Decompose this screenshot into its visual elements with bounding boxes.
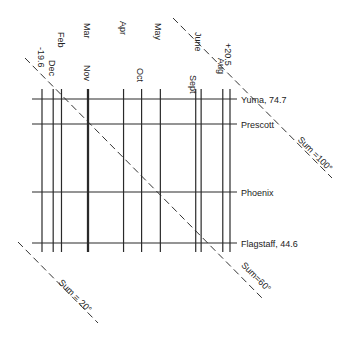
city-label: Flagstaff, 44.6 — [241, 239, 298, 249]
nomogram-figure: -19.6 Feb Mar Apr May June +20.5 Dec Nov… — [0, 0, 354, 338]
month-label-sep: Sept — [188, 75, 198, 94]
month-label-dec: Dec — [47, 60, 57, 77]
sum-60-line — [25, 58, 262, 298]
sum-20-label: Sum = 20° — [57, 277, 94, 314]
month-label-mar: Mar — [82, 23, 92, 39]
month-label-min: -19.6 — [36, 47, 46, 68]
city-label: Yuma, 74.7 — [241, 95, 287, 105]
month-label-apr: Apr — [118, 21, 128, 35]
month-label-jun: June — [193, 32, 203, 52]
month-label-oct: Oct — [135, 68, 145, 83]
sum-60-label: Sum=60° — [239, 260, 273, 294]
sum-100-label: Sum =100° — [296, 134, 335, 173]
month-labels: -19.6 Feb Mar Apr May June +20.5 Dec Nov… — [36, 21, 233, 94]
sum-lines — [18, 18, 332, 323]
city-label: Phoenix — [241, 188, 274, 198]
city-label: Prescott — [241, 120, 275, 130]
month-label-aug: Aug — [216, 58, 226, 74]
city-lines — [32, 99, 237, 243]
city-labels: Yuma, 74.7PrescottPhoenixFlagstaff, 44.6 — [241, 95, 298, 249]
month-label-feb: Feb — [56, 32, 66, 48]
month-label-may: May — [153, 23, 163, 41]
month-label-nov: Nov — [82, 65, 92, 82]
